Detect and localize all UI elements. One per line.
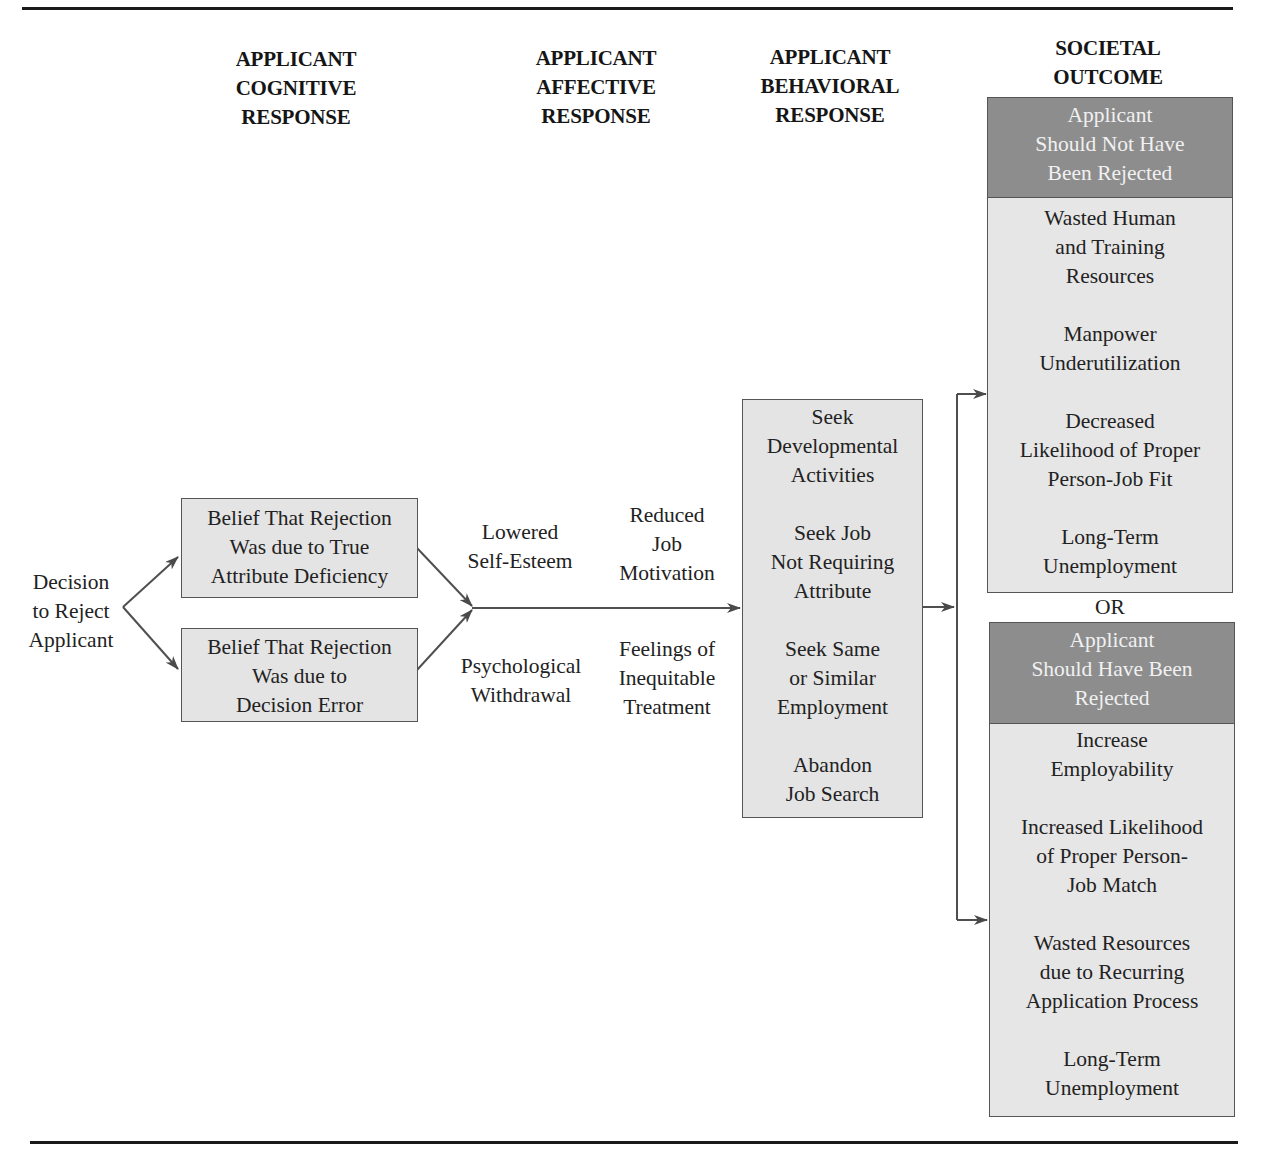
affective-label-inequitable-treatment: Feelings of Inequitable Treatment [597,635,737,722]
behavioral-response-box: Seek Developmental Activities Seek Job N… [742,399,923,818]
cognitive-box-decision-error: Belief That Rejection Was due to Decisio… [181,628,418,722]
outcome-box-should-not-have-been-rejected: Applicant Should Not Have Been Rejected … [987,97,1233,593]
affective-label-lowered-self-esteem: Lowered Self-Esteem [450,518,590,576]
decision-to-reject-label: Decision to Reject Applicant [10,568,132,655]
outcome-item: Long-Term Unemployment [988,523,1232,581]
affective-label-psychological-withdrawal: Psychological Withdrawal [446,652,596,710]
outcome-item: Increased Likelihood of Proper Person- J… [990,813,1234,900]
behavioral-item: Abandon Job Search [743,751,922,809]
cognitive-box-true-deficiency: Belief That Rejection Was due to True At… [181,498,418,598]
outcome-box-should-have-been-rejected: Applicant Should Have Been Rejected Incr… [989,622,1235,1117]
outcome-item: Manpower Underutilization [988,320,1232,378]
outcome-item: Wasted Resources due to Recurring Applic… [990,929,1234,1016]
outcome-body: Wasted Human and Training Resources Manp… [988,198,1232,581]
cognitive-box-text: Belief That Rejection Was due to True At… [182,504,417,591]
outcome-header: Applicant Should Have Been Rejected [990,623,1234,724]
cognitive-box-text: Belief That Rejection Was due to Decisio… [182,633,417,720]
outcome-item: Wasted Human and Training Resources [988,204,1232,291]
behavioral-item: Seek Job Not Requiring Attribute [743,519,922,606]
or-separator: OR [1060,593,1160,622]
behavioral-item: Seek Developmental Activities [743,403,922,490]
outcome-body: Increase Employability Increased Likelih… [990,724,1234,1103]
outcome-item: Decreased Likelihood of Proper Person-Jo… [988,407,1232,494]
outcome-item: Long-Term Unemployment [990,1045,1234,1103]
behavioral-item: Seek Same or Similar Employment [743,635,922,722]
outcome-item: Increase Employability [990,726,1234,784]
outcome-header: Applicant Should Not Have Been Rejected [988,98,1232,198]
affective-label-reduced-job-motivation: Reduced Job Motivation [597,501,737,588]
